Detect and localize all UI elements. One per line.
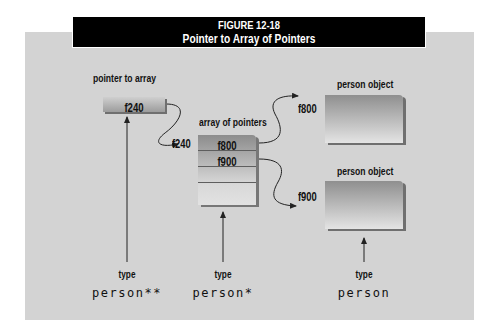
- f900-arrow: [259, 159, 296, 206]
- object-type: person: [309, 286, 419, 300]
- pointer-type-label: type: [105, 268, 150, 280]
- pointer-type: person**: [72, 286, 182, 300]
- array-row: [198, 183, 256, 198]
- array-row: f800: [198, 135, 256, 151]
- array-caption: array of pointers: [199, 116, 267, 128]
- pointer-value: f240: [124, 101, 143, 116]
- pointer-caption: pointer to array: [93, 72, 156, 84]
- object-type-label: type: [342, 268, 387, 280]
- array-box: f800 f900: [198, 135, 256, 205]
- pointer-box: f240: [103, 97, 165, 112]
- array-address: f240: [172, 137, 191, 151]
- person-object-box: [325, 181, 403, 229]
- person-object-box: [325, 95, 403, 143]
- object-address: f900: [298, 190, 317, 204]
- object-caption: person object: [337, 78, 393, 90]
- object-caption: person object: [337, 165, 393, 177]
- object-address: f800: [298, 102, 317, 116]
- array-type-label: type: [201, 268, 246, 280]
- array-type: person*: [168, 286, 278, 300]
